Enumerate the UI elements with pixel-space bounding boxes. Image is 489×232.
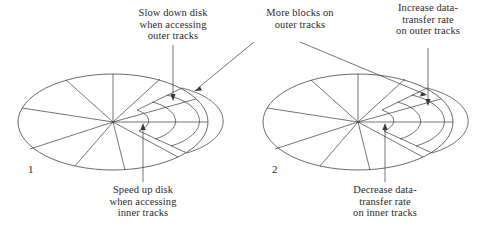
leader-slow-down: [170, 45, 175, 101]
annotation-increase-transfer-rate: Increase data- transfer rate on outer tr…: [374, 2, 482, 37]
leader-more-blocks-right: [300, 42, 427, 97]
annotation-slow-down-disk: Slow down disk when accessing outer trac…: [119, 7, 227, 42]
leader-decrease-rate: [382, 123, 387, 182]
disk-right-number-label: 2: [272, 163, 278, 175]
disk-left-track-arcs: [137, 88, 223, 153]
leader-increase-rate: [425, 48, 430, 106]
annotation-decrease-transfer-rate: Decrease data- transfer rate on inner tr…: [328, 184, 442, 219]
disk-right: [263, 74, 468, 170]
disk-left-number-label: 1: [28, 163, 34, 175]
leader-more-blocks-left: [194, 42, 254, 91]
annotation-speed-up-disk: Speed up disk when accessing inner track…: [88, 184, 198, 219]
disk-zoned-recording-diagram: Slow down disk when accessing outer trac…: [0, 0, 489, 232]
disk-right-track-arcs: [382, 88, 468, 153]
disk-left: [18, 74, 223, 170]
annotation-more-blocks: More blocks on outer tracks: [252, 7, 348, 30]
